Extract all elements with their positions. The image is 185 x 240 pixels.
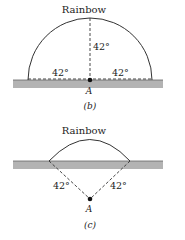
angle-label-left: 42° [53,180,70,191]
panel-c: Rainbow 42° 42° A (c) [13,125,163,230]
ground-strip [13,161,163,169]
rainbow-label: Rainbow [62,4,107,15]
angle-label-right: 42° [112,67,129,78]
panel-caption: (c) [84,220,97,230]
rainbow-label: Rainbow [62,125,107,136]
rainbow-diagram: Rainbow 42° 42° 42° A (b) Rainbow 42° 42… [0,0,185,240]
panel-b: Rainbow 42° 42° 42° A (b) [13,4,163,111]
observer-point [88,78,93,83]
angle-label-vertical: 42° [93,41,110,52]
observer-point [88,197,93,202]
observer-label: A [85,204,93,214]
angle-label-left: 42° [52,67,69,78]
observer-label: A [85,86,93,96]
panel-caption: (b) [84,101,97,111]
angle-label-right: 42° [110,180,127,191]
rainbow-arc [49,140,130,162]
